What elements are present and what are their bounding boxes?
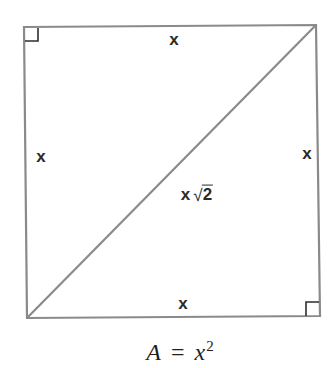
area-formula: A=x2 <box>146 339 213 364</box>
diagonal-label: x √ 2 <box>181 185 213 204</box>
diagonal-line <box>27 25 316 318</box>
square-root-expression: √ 2 <box>193 185 213 204</box>
top-side-label: x <box>169 31 178 48</box>
diagonal-label-variable: x <box>181 186 190 203</box>
right-angle-marker-bottom-right-icon <box>306 302 319 316</box>
square-drawing <box>0 0 336 368</box>
formula-rhs-base: x <box>195 339 206 365</box>
radicand: 2 <box>202 185 213 204</box>
formula-lhs: A <box>146 339 161 365</box>
right-side-label: x <box>302 145 311 162</box>
left-side-label: x <box>36 148 45 165</box>
formula-rhs-exponent: 2 <box>206 338 214 354</box>
square-diagram: x x x x x √ 2 A=x2 <box>0 0 336 368</box>
bottom-side-label: x <box>178 295 187 312</box>
right-angle-marker-top-left-icon <box>25 28 38 41</box>
formula-equals: = <box>171 339 185 365</box>
